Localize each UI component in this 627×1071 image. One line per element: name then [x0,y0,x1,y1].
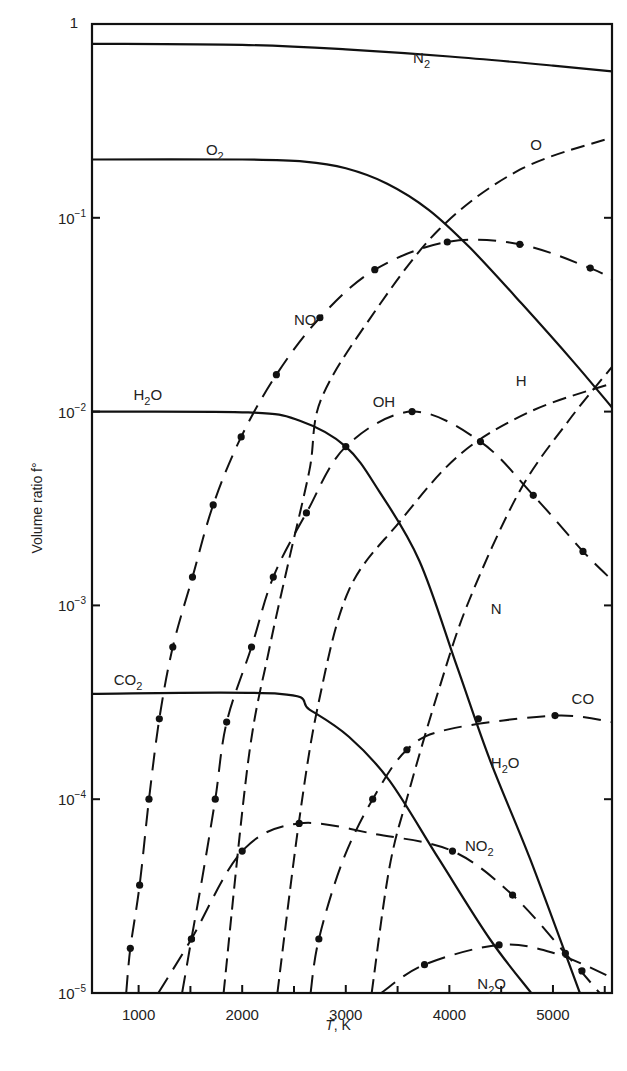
marker-dot [578,967,585,974]
marker-dot [296,820,303,827]
marker-dot [212,796,219,803]
marker-dot [342,443,349,450]
y-tick-label: 10−4 [58,789,87,808]
series-label-n: N [491,600,502,617]
marker-dot [562,950,569,957]
marker-dot [475,715,482,722]
marker-dot [371,266,378,273]
marker-dot [156,715,163,722]
series-line-h [277,383,612,993]
y-tick-label: 1 [70,14,78,31]
y-tick-label: 10−2 [58,402,87,421]
marker-dot [136,882,143,889]
marker-dot [551,712,558,719]
marker-dot [421,961,428,968]
marker-dot [315,935,322,942]
x-tick-label: 4000 [433,1006,466,1023]
series-line-o2 [92,159,612,407]
series-label-n2: N2 [413,49,430,70]
y-tick-label: 10−3 [58,595,87,614]
marker-dot [516,241,523,248]
y-axis-title: Volume ratio f° [29,462,45,553]
series-label-h2o: H2O [133,386,162,407]
y-tick-label: 10−5 [58,983,87,1002]
x-tick-label: 2000 [226,1006,259,1023]
series-label-no2: NO2 [465,837,494,858]
x-axis-ticks: 10002000300040005000 [122,985,605,1023]
y-tick-label: 10−1 [58,208,87,227]
marker-dot [579,548,586,555]
marker-dot [369,796,376,803]
marker-dot [509,892,516,899]
marker-dot [303,509,310,516]
x-tick-label: 5000 [536,1006,569,1023]
series-layer [92,44,612,993]
marker-dot [189,573,196,580]
marker-layer [127,238,594,974]
series-line-n [372,367,612,993]
marker-dot [403,746,410,753]
series-line-h2o [92,412,580,993]
series-labels: N2O2ONOH2OH2OOHHNCO2CONO2N2O [114,49,594,996]
marker-dot [316,314,323,321]
marker-dot [444,238,451,245]
marker-dot [270,573,277,580]
marker-dot [449,847,456,854]
marker-dot [210,501,217,508]
series-label-o: O [530,136,542,153]
series-label-no: NO [294,311,317,328]
marker-dot [477,438,484,445]
series-label-h: H [516,372,527,389]
x-tick-label: 1000 [122,1006,155,1023]
marker-dot [223,718,230,725]
series-label-co2: CO2 [114,671,143,692]
marker-dot [169,643,176,650]
marker-dot [127,945,134,952]
x-axis-title: T, K [325,1017,351,1033]
marker-dot [530,492,537,499]
marker-dot [248,643,255,650]
marker-dot [145,796,152,803]
series-line-n2 [92,44,612,72]
marker-dot [495,941,502,948]
series-label-oh: OH [373,393,396,410]
marker-dot [188,935,195,942]
chart: 10002000300040005000 110−110−210−310−410… [0,0,627,1071]
marker-dot [408,408,415,415]
series-line-no2 [158,823,599,993]
series-label-co: CO [572,690,595,707]
marker-dot [239,847,246,854]
series-line-o [224,137,612,993]
marker-dot [587,265,594,272]
marker-dot [273,371,280,378]
marker-dot [238,433,245,440]
